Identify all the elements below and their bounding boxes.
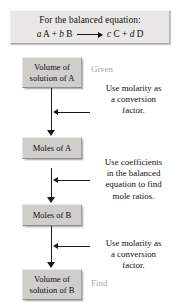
coefficient-a: a [37, 29, 42, 39]
note-line: Use molarity as [88, 83, 179, 94]
balanced-equation-panel: For the balanced equation: a A + b B c C… [10, 10, 170, 44]
flow-box-line: Moles of B [33, 210, 72, 221]
flow-box-line: Volume of [34, 62, 70, 73]
note-leader-line-3 [57, 246, 90, 247]
arrowhead-left-icon [53, 109, 58, 115]
reaction-arrow-icon [77, 31, 103, 38]
note-line: a conversion [88, 94, 179, 105]
arrowhead-left-icon [53, 243, 58, 249]
stoichiometry-flowchart: For the balanced equation: a A + b B c C… [0, 0, 181, 307]
note-line: in the balanced [88, 168, 179, 179]
species-a: A [43, 29, 49, 39]
note-line: factor. [88, 105, 179, 116]
flow-box-moles-a: Moles of A [22, 137, 82, 159]
arrowhead-down-icon [47, 197, 55, 203]
plus-sign-left: + [52, 29, 57, 39]
flow-box-volume-solution-a: Volume of solution of A [22, 57, 82, 88]
note-line: Use molarity as [88, 238, 179, 249]
flow-box-line: solution of A [30, 73, 75, 84]
note-line: Use coefficients [88, 157, 179, 168]
flow-box-volume-solution-b: Volume of solution of B [22, 269, 82, 300]
label-given: Given [91, 64, 113, 75]
flow-box-line: Moles of A [33, 143, 72, 154]
plus-sign-right: + [122, 29, 127, 39]
note-leader-line-2 [57, 180, 90, 181]
arrowhead-down-icon [47, 130, 55, 136]
balanced-equation-caption: For the balanced equation: [11, 11, 169, 26]
flow-box-line: solution of B [30, 285, 75, 296]
note-molarity-conversion-2: Use molarity as a conversion factor. [88, 238, 179, 272]
note-leader-line-1 [57, 112, 90, 113]
species-d: D [137, 29, 144, 39]
note-molarity-conversion-1: Use molarity as a conversion factor. [88, 83, 179, 117]
flow-box-moles-b: Moles of B [22, 204, 82, 226]
species-b: B [66, 29, 72, 39]
label-find: Find [91, 278, 108, 289]
arrowhead-down-icon [47, 262, 55, 268]
coefficient-b: b [59, 29, 64, 39]
coefficient-d: d [130, 29, 135, 39]
coefficient-c: c [107, 29, 111, 39]
note-coefficients-mole-ratios: Use coefficients in the balanced equatio… [88, 157, 179, 202]
arrowhead-left-icon [53, 177, 58, 183]
note-line: equation to find [88, 179, 179, 190]
note-line: factor. [88, 260, 179, 271]
flow-box-line: Volume of [34, 274, 70, 285]
balanced-equation: a A + b B c C + d D [11, 26, 169, 40]
species-c: C [114, 29, 120, 39]
note-line: mole ratios. [88, 191, 179, 202]
note-line: a conversion [88, 249, 179, 260]
connector-arrow-moles-a-to-moles-b [51, 168, 52, 198]
